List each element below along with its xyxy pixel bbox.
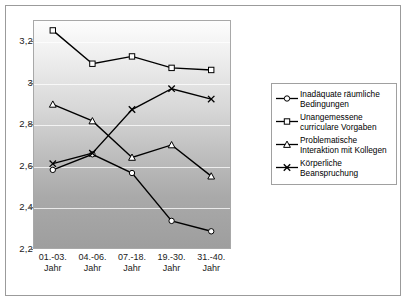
x-tick-label: 31.-40.Jahr [184, 252, 238, 274]
series-2 [50, 28, 214, 73]
data-point-circle [284, 96, 289, 101]
legend-entry-label: Problematische Interaktion mit Kollegen [299, 135, 393, 155]
series-1 [50, 152, 214, 234]
data-point-square [209, 67, 214, 72]
data-point-square [169, 65, 174, 70]
data-point-circle [169, 218, 174, 223]
x-axis: 01.-03.Jahr04.-06.Jahr07.-18.Jahr19.-30.… [33, 252, 231, 292]
legend-entry-label: Unangemessene curriculare Vorgaben [299, 112, 393, 132]
legend-entry: Problematische Interaktion mit Kollegen [275, 135, 393, 155]
legend-entry-label: Inadäquate räumliche Bedingungen [299, 89, 393, 109]
y-tick-mark [29, 249, 33, 250]
data-point-x [129, 106, 135, 112]
data-point-circle [50, 167, 55, 172]
series-line [53, 104, 211, 176]
series-line [53, 89, 211, 164]
y-axis: 3,232,82,62,42,2 [1, 20, 33, 249]
series-3 [49, 101, 214, 179]
x-tick-line: Jahr [184, 263, 238, 274]
legend-marker-square-icon [275, 113, 299, 124]
data-point-circle [129, 170, 134, 175]
legend-entry: Unangemessene curriculare Vorgaben [275, 112, 393, 132]
data-point-triangle [168, 142, 175, 148]
plot-wrapper: 01.-03.Jahr04.-06.Jahr07.-18.Jahr19.-30.… [33, 20, 231, 249]
x-tick-line: 31.-40. [184, 252, 238, 263]
legend-marker-x-icon [275, 159, 299, 170]
legend-marker-circle-icon [275, 90, 299, 101]
chart-legend: Inadäquate räumliche BedingungenUnangeme… [271, 83, 397, 185]
data-point-circle [209, 229, 214, 234]
series-canvas [33, 20, 231, 249]
legend-entry: Körperliche Beanspruchung [275, 158, 393, 178]
legend-marker-triangle-icon [275, 136, 299, 147]
chart-figure: 3,232,82,62,42,2 01.-03.Jahr04.-06.Jahr0… [0, 0, 407, 302]
series-line [53, 30, 211, 70]
data-point-triangle [49, 101, 56, 107]
series-line [53, 154, 211, 231]
data-point-square [284, 119, 289, 124]
data-point-square [129, 54, 134, 59]
data-point-square [90, 61, 95, 66]
data-point-square [50, 28, 55, 33]
legend-entry-label: Körperliche Beanspruchung [299, 158, 393, 178]
legend-entry: Inadäquate räumliche Bedingungen [275, 89, 393, 109]
